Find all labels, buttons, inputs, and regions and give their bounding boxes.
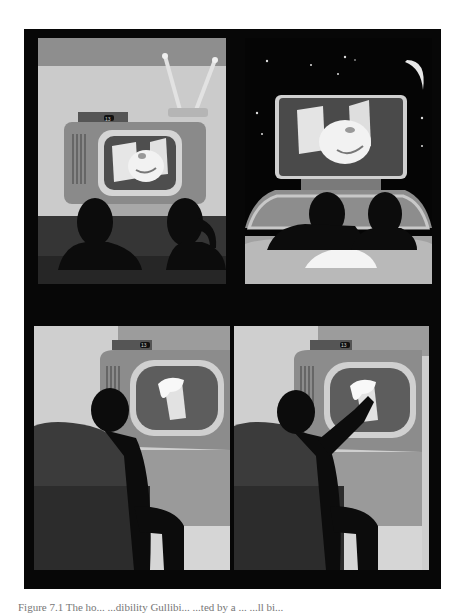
svg-text:13: 13 — [141, 342, 147, 348]
figure-caption: Figure 7.1 The ho... ...dibility Gullibi… — [18, 601, 458, 613]
panel-top-left: 13 — [38, 38, 226, 284]
svg-text:13: 13 — [341, 342, 347, 348]
svg-text:13: 13 — [105, 116, 111, 122]
comic-frame: 13 — [24, 29, 441, 589]
panel-top-right — [245, 38, 432, 284]
panel-bottom-right: 13 — [234, 326, 429, 570]
panel-bottom-left: 13 — [34, 326, 230, 570]
